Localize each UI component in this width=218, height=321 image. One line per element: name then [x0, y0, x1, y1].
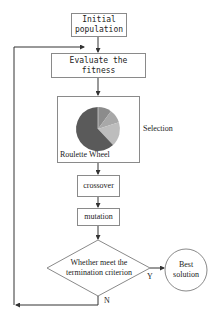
mutation-label: mutation [84, 212, 112, 222]
crossover-label: crossover [83, 181, 114, 191]
initial-population-box: Initial population [71, 13, 127, 37]
best-solution-text: Best solution [166, 260, 206, 280]
roulette-wheel-caption: Roulette Wheel [60, 150, 110, 160]
no-label: N [104, 296, 110, 306]
best-solution-line2: solution [166, 270, 206, 280]
crossover-box: crossover [77, 175, 120, 197]
yes-label: Y [147, 272, 153, 282]
flowchart-canvas: Initial population Evaluate the fitness … [0, 0, 218, 321]
selection-label: Selection [143, 124, 173, 134]
decision-line1: Whether meet the [60, 258, 138, 268]
initial-population-line1: Initial [82, 15, 116, 25]
mutation-box: mutation [77, 208, 120, 226]
evaluate-fitness-box: Evaluate the fitness [51, 53, 146, 78]
decision-line2: termination criterion [60, 268, 138, 278]
initial-population-line2: population [75, 25, 123, 35]
decision-text: Whether meet the termination criterion [60, 258, 138, 278]
evaluate-fitness-line1: Evaluate the [70, 56, 128, 66]
best-solution-line1: Best [166, 260, 206, 270]
evaluate-fitness-line2: fitness [82, 66, 116, 76]
